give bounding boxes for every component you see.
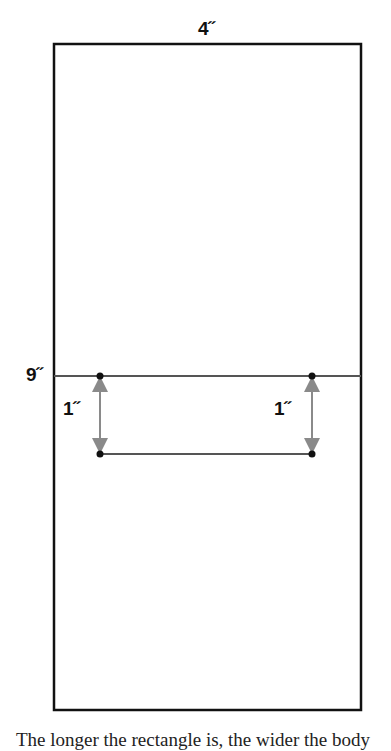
dot-bottom-left bbox=[97, 451, 104, 458]
height-mark-label: 9˝ bbox=[26, 364, 43, 386]
dot-top-left bbox=[97, 373, 104, 380]
right-offset-label: 1˝ bbox=[274, 398, 291, 420]
left-offset-label: 1˝ bbox=[63, 398, 80, 420]
dot-bottom-right bbox=[309, 451, 316, 458]
dot-top-right bbox=[309, 373, 316, 380]
width-label: 4˝ bbox=[198, 18, 215, 40]
caption: The longer the rectangle is, the wider t… bbox=[16, 729, 370, 751]
